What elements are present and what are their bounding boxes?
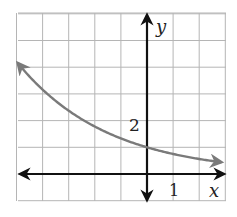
x-tick-label: 1 [169,181,179,200]
grid-lines [17,13,227,201]
x-axis-label: x [209,180,219,201]
y-tick-label: 2 [129,115,140,135]
y-axis-label: y [155,16,167,37]
function-graph: y x 2 1 [0,0,237,217]
